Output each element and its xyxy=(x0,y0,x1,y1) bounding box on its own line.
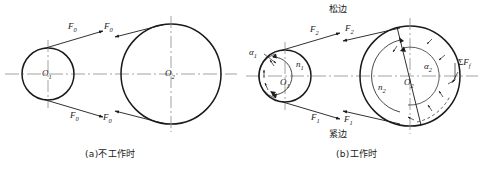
label-f0-small-upper: F0 xyxy=(68,22,77,33)
caption-a: (a)不工作时 xyxy=(85,150,136,159)
label-sum-friction-force: ΣFf xyxy=(458,58,471,69)
label-alpha1: α1 xyxy=(249,48,257,59)
force-arrow-f0-small-upper xyxy=(44,31,103,49)
label-slack-side: 松边 xyxy=(329,5,348,14)
label-alpha2: α2 xyxy=(424,62,432,73)
label-tight-side: 紧边 xyxy=(329,130,348,139)
rotation-arrow-large-b xyxy=(399,37,404,43)
label-o2-a: O2 xyxy=(165,69,175,80)
label-n2: n2 xyxy=(378,83,386,94)
caption-b: (b)工作时 xyxy=(336,150,378,159)
diagram-a-group xyxy=(5,16,237,132)
label-f0-large-upper: F0 xyxy=(104,22,113,33)
friction-tick-small-2 xyxy=(265,83,268,90)
label-o2-b: O2 xyxy=(404,78,414,89)
friction-tick-large-2 xyxy=(439,55,445,60)
label-f0-small-lower: F0 xyxy=(70,111,79,122)
friction-tick-large-4 xyxy=(439,91,443,97)
label-f1-large-lower: F1 xyxy=(344,115,353,126)
belt-drive-figure: O1 O2 F0 F0 F0 F0 (a)不工作时 松边 紧边 O1 O2 α1… xyxy=(0,0,485,169)
label-f1-small-lower: F1 xyxy=(311,113,320,124)
friction-tick-large-5 xyxy=(428,105,432,111)
friction-tick-large-1 xyxy=(448,80,455,84)
label-o1-b: O1 xyxy=(280,78,290,89)
label-f0-large-lower: F0 xyxy=(103,113,112,124)
label-f2-small-upper: F2 xyxy=(310,25,319,36)
label-f2-large-upper: F2 xyxy=(345,24,354,35)
diagram-b-group xyxy=(246,18,478,134)
friction-dashed-arc-large-b xyxy=(417,96,450,122)
friction-tick-large-6 xyxy=(408,117,414,120)
label-n1: n1 xyxy=(296,60,304,71)
label-o1-a: O1 xyxy=(42,69,52,80)
friction-tick-large-7 xyxy=(393,46,397,52)
friction-tick-large-3 xyxy=(427,39,432,44)
